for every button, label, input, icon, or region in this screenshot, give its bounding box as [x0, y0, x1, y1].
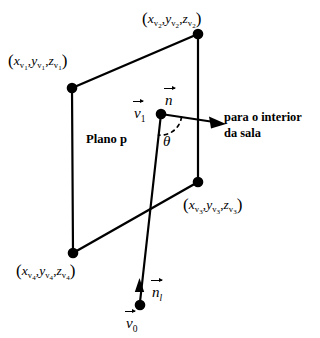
vector-label-v0: v0 [126, 316, 137, 334]
theta-symbol: θ [163, 133, 170, 149]
vector-label-v1: v1 [134, 106, 145, 124]
vertex-dot-v3 [193, 177, 204, 188]
direction-annotation: para o interior da sala [224, 110, 302, 141]
nl-vector-sub: l [160, 293, 163, 303]
v1-close-paren: ) [62, 51, 68, 70]
point-dot-v0 [135, 300, 146, 311]
v1-vector-sub: 1 [141, 114, 146, 124]
direction-annotation-line2: da sala [224, 126, 302, 142]
vertex-label-v2: (xv2,yv2,zv2) [142, 10, 202, 30]
plane-label: Plano p [86, 133, 127, 146]
edge-v4-v1 [72, 88, 73, 253]
direction-annotation-line1: para o interior [224, 110, 302, 126]
vertex-label-v3: (xv3,yv3,zv3) [183, 196, 243, 216]
v4-close-paren: ) [70, 261, 76, 280]
normal-vector-n [161, 114, 226, 129]
v0-vector-sub: 0 [133, 324, 138, 334]
v0-vector-symbol: v [126, 316, 133, 331]
edge-v1-v2 [72, 34, 198, 88]
vertex-dot-v2 [193, 29, 204, 40]
plane-label-text: Plano p [86, 132, 127, 146]
diagram-canvas: (xv2,yv2,zv2) (xv1,yv1,zv1) (xv3,yv3,zv3… [0, 0, 320, 338]
edge-v3-v4 [73, 182, 198, 253]
v2-close-paren: ) [196, 9, 202, 28]
vector-label-nl: nl [152, 285, 162, 303]
v3-close-paren: ) [237, 195, 243, 214]
vertex-label-v1: (xv1,yv1,zv1) [8, 52, 68, 72]
incident-ray-line [140, 114, 161, 302]
n-vector-symbol: n [165, 93, 173, 108]
vertex-label-v4: (xv4,yv4,zv4) [16, 262, 76, 282]
vertex-dot-v4 [68, 248, 79, 259]
v1-vector-symbol: v [134, 106, 141, 121]
vertex-dot-v1 [67, 83, 78, 94]
vector-label-n: n [165, 93, 173, 108]
nl-vector-symbol: n [152, 285, 160, 300]
angle-label-theta: θ [163, 134, 170, 149]
normal-vector-shaft [161, 114, 214, 122]
point-dot-v1-vector [156, 109, 167, 120]
